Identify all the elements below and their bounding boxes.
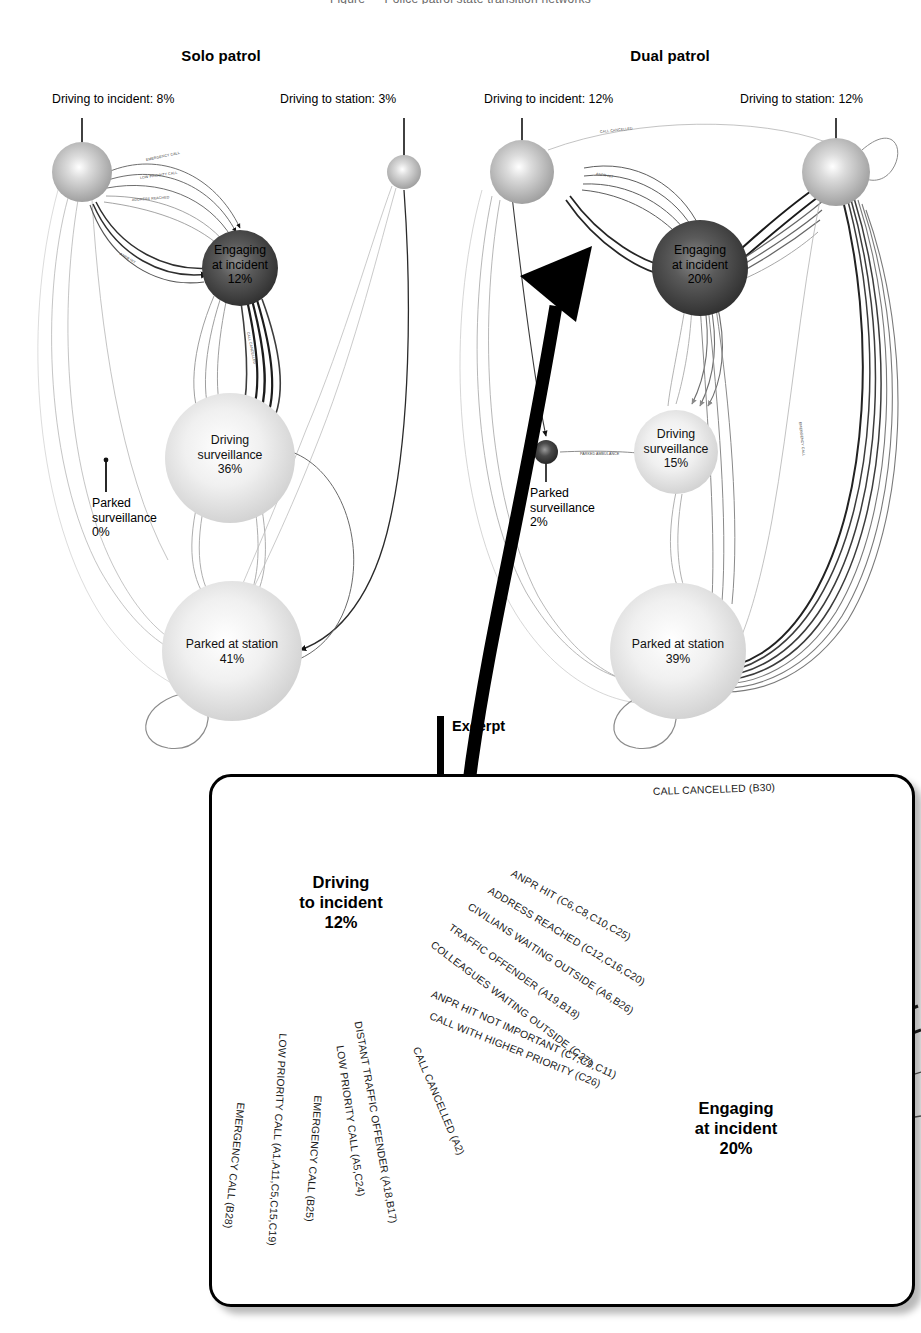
solo-node-driving-to-station[interactable] (387, 155, 421, 189)
dual-node-driving-to-station[interactable] (802, 138, 870, 206)
dual-patrol-network (460, 118, 898, 748)
dual-caption-parked-surveillance: Parked surveillance 2% (530, 486, 645, 530)
dual-parked-surv-value: 2% (530, 515, 548, 529)
solo-caption-parked-surveillance: Parked surveillance 0% (92, 496, 207, 540)
solo-caption-driving-to-incident: Driving to incident: 8% (52, 92, 174, 107)
solo-caption-driving-to-station: Driving to station: 3% (280, 92, 396, 107)
solo-node-parked-at-station[interactable] (162, 581, 302, 721)
dual-node-driving-to-incident[interactable] (490, 140, 554, 204)
solo-parked-surv-line1: Parked (92, 496, 131, 510)
solo-node-driving-to-incident[interactable] (52, 142, 112, 202)
dual-node-parked-at-station[interactable] (610, 583, 746, 719)
solo-parked-surv-line2: surveillance (92, 511, 157, 525)
dual-node-engaging-at-incident[interactable] (652, 220, 748, 316)
figure-stage: Figure — Police patrol state transition … (0, 0, 921, 1333)
solo-node-engaging-at-incident[interactable] (202, 230, 278, 306)
solo-parked-surveillance-marker (104, 458, 109, 492)
panel-title-dual: Dual patrol (595, 47, 745, 64)
dual-node-driving-surveillance[interactable] (634, 410, 718, 494)
dual-leader-lines (520, 118, 839, 174)
excerpt-connector-stem (437, 716, 444, 774)
dual-caption-driving-to-incident: Driving to incident: 12% (484, 92, 613, 107)
dual-parked-surv-line1: Parked (530, 486, 569, 500)
dual-parked-surv-line2: surveillance (530, 501, 595, 515)
excerpt-title: Excerpt (452, 718, 505, 734)
dual-caption-driving-to-station: Driving to station: 12% (740, 92, 863, 107)
solo-patrol-network (38, 118, 421, 748)
panel-title-solo: Solo patrol (146, 47, 296, 64)
solo-parked-surv-value: 0% (92, 525, 110, 539)
dual-micro-edge-label-3: PARKED AMBULANCE (580, 452, 619, 456)
